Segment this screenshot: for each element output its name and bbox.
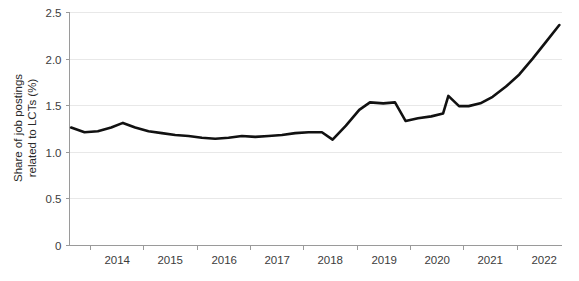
gridlines-group (69, 13, 563, 199)
line-chart: 00.51.01.52.02.5 20142015201620172018201… (0, 0, 579, 281)
x-tick-label-2015: 2015 (157, 254, 183, 266)
y-tick-label-2.0: 2.0 (46, 54, 62, 66)
x-tick-label-2014: 2014 (104, 254, 130, 266)
x-tick-label-2018: 2018 (317, 254, 343, 266)
x-tick-label-2019: 2019 (371, 254, 397, 266)
chart-figure: 00.51.01.52.02.5 20142015201620172018201… (0, 0, 579, 281)
x-axis-tick-labels-group: 201420152016201720182019202020212022 (104, 254, 557, 266)
y-axis-label-line2: related to LCTs (%) (26, 79, 38, 178)
x-tick-label-2020: 2020 (424, 254, 450, 266)
x-tick-label-2017: 2017 (264, 254, 290, 266)
y-tick-label-2.5: 2.5 (46, 7, 62, 19)
y-axis-tick-labels-group: 00.51.01.52.02.5 (46, 7, 62, 252)
data-series-group (71, 25, 559, 140)
x-tick-label-2022: 2022 (531, 254, 557, 266)
x-tick-label-2016: 2016 (211, 254, 237, 266)
y-tick-label-0: 0 (55, 240, 61, 252)
x-axis-ticks-group (91, 246, 518, 250)
y-tick-label-1.5: 1.5 (46, 100, 62, 112)
y-tick-label-1.0: 1.0 (46, 147, 62, 159)
y-axis-ticks-group (66, 13, 70, 246)
y-tick-label-0.5: 0.5 (46, 193, 62, 205)
y-axis-label-line1: Share of job postings (12, 74, 24, 182)
x-tick-label-2021: 2021 (477, 254, 503, 266)
data-line-series-0 (71, 25, 559, 140)
